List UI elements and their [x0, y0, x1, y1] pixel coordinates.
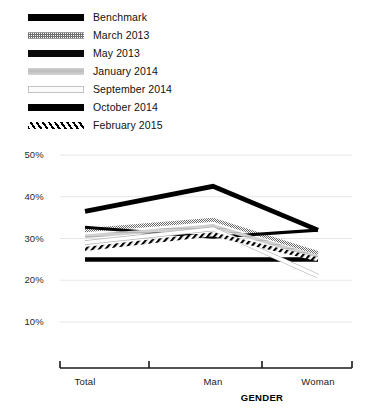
y-tick-label: 50% — [14, 149, 44, 160]
line-chart: Benchmark March 2013 May 2013 January 20… — [0, 0, 380, 414]
plot-area: 10%20%30%40%50% TotalManWoman GENDER — [0, 0, 380, 414]
y-tick-label: 40% — [14, 191, 44, 202]
series-layer — [85, 186, 318, 276]
x-tick-label: Man — [178, 376, 248, 387]
axis-layer — [60, 361, 352, 368]
y-tick-label: 30% — [14, 233, 44, 244]
series-line-october-2014 — [85, 186, 318, 230]
x-tick-label: Total — [50, 376, 120, 387]
y-tick-label: 20% — [14, 274, 44, 285]
x-tick-label: Woman — [283, 376, 353, 387]
plot-canvas — [0, 0, 380, 414]
x-axis-title: GENDER — [217, 392, 307, 403]
y-tick-label: 10% — [14, 316, 44, 327]
